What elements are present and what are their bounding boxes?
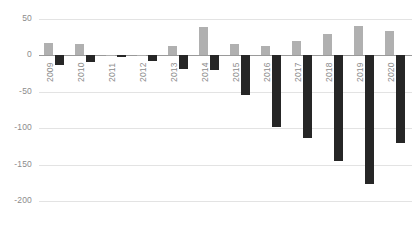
- bar-negative-2019: [365, 55, 374, 184]
- bar-negative-2010: [86, 55, 95, 62]
- x-axis-tick-label-2017: 2017: [293, 62, 303, 82]
- y-axis-tick-label: 50: [0, 13, 32, 23]
- bar-negative-2018: [334, 55, 343, 161]
- bar-positive-2009: [44, 43, 53, 55]
- plot-area: 500-50-100-150-2002009201020112012201320…: [0, 0, 417, 231]
- y-gridline: [39, 165, 412, 166]
- x-axis-tick-label-2018: 2018: [324, 62, 334, 82]
- x-axis-tick-label-2014: 2014: [200, 62, 210, 82]
- zero-baseline: [39, 55, 412, 56]
- x-axis-tick-label-2009: 2009: [45, 62, 55, 82]
- bar-negative-2016: [272, 55, 281, 127]
- x-axis-tick-label-2011: 2011: [107, 63, 117, 82]
- y-axis-tick-label: -200: [0, 195, 32, 205]
- x-axis-tick-label-2020: 2020: [386, 62, 396, 82]
- x-axis-tick-label-2010: 2010: [76, 62, 86, 82]
- bar-positive-2013: [168, 46, 177, 55]
- bar-negative-2011: [117, 55, 126, 57]
- bar-positive-2019: [354, 26, 363, 55]
- bar-positive-2015: [230, 44, 239, 55]
- bar-positive-2012: [137, 55, 146, 56]
- bar-positive-2020: [385, 31, 394, 55]
- bar-negative-2009: [55, 55, 64, 65]
- bar-positive-2014: [199, 27, 208, 55]
- y-axis-tick-label: -150: [0, 159, 32, 169]
- bar-positive-2011: [106, 55, 115, 56]
- x-axis-tick-label-2015: 2015: [231, 62, 241, 82]
- y-gridline: [39, 128, 412, 129]
- y-axis-tick-label: 0: [0, 49, 32, 59]
- y-gridline: [39, 92, 412, 93]
- bar-positive-2018: [323, 34, 332, 55]
- x-axis-tick-label-2012: 2012: [138, 62, 148, 82]
- bar-positive-2010: [75, 44, 84, 55]
- bar-chart: 500-50-100-150-2002009201020112012201320…: [0, 0, 417, 231]
- bar-negative-2015: [241, 55, 250, 95]
- bar-negative-2014: [210, 55, 219, 70]
- bar-negative-2020: [396, 55, 405, 143]
- bar-negative-2013: [179, 55, 188, 69]
- bar-positive-2016: [261, 46, 270, 55]
- y-gridline: [39, 201, 412, 202]
- bar-negative-2012: [148, 55, 157, 61]
- bar-positive-2017: [292, 41, 301, 55]
- y-axis-tick-label: -50: [0, 86, 32, 96]
- x-axis-tick-label-2013: 2013: [169, 62, 179, 82]
- y-gridline: [39, 19, 412, 20]
- bar-negative-2017: [303, 55, 312, 138]
- x-axis-tick-label-2019: 2019: [355, 62, 365, 82]
- x-axis-tick-label-2016: 2016: [262, 62, 272, 82]
- y-axis-tick-label: -100: [0, 122, 32, 132]
